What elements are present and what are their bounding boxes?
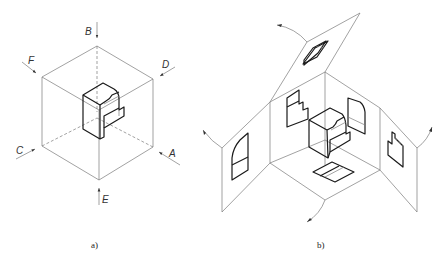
projection-cube <box>42 46 153 180</box>
object-block <box>83 83 124 139</box>
rotate-arrow-left-icon <box>203 130 222 148</box>
bottom-view-drawing <box>313 162 354 182</box>
caption-a: a) <box>91 240 98 250</box>
left-side-view-drawing <box>232 133 248 180</box>
panel-b-unfolded-planes: b) <box>203 13 432 250</box>
view-arrows <box>16 22 180 205</box>
figure-canvas: B F D C A E a) <box>0 0 448 264</box>
top-view-drawing <box>303 41 328 65</box>
label-f: F <box>28 55 35 66</box>
caption-b: b) <box>317 240 325 250</box>
label-d: D <box>162 59 169 70</box>
rotate-arrow-top-icon <box>277 25 307 42</box>
panel-a-cube-diagram: B F D C A E a) <box>16 22 180 250</box>
label-e: E <box>102 194 109 205</box>
label-c: C <box>16 145 24 156</box>
side-view-drawing <box>348 98 365 134</box>
front-view-drawing <box>287 90 308 127</box>
left-plane <box>222 102 270 212</box>
label-a: A <box>168 148 176 159</box>
right-side-view-drawing <box>388 132 403 167</box>
label-b: B <box>85 26 92 37</box>
right-plane <box>380 108 417 212</box>
